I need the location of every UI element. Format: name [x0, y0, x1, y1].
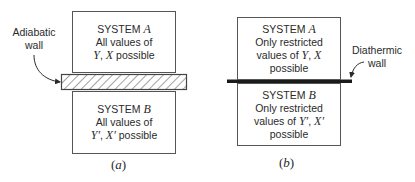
system-a-line3: values of Y, X	[257, 49, 322, 62]
adiabatic-wall-label: Adiabatic wall	[8, 26, 60, 52]
system-b-line3: Y′, X′ possible	[91, 129, 158, 142]
system-a-title: SYSTEM A	[97, 23, 150, 36]
diathermic-label-line1: Diathermic	[347, 44, 407, 57]
system-b-line2: All values of	[96, 116, 153, 129]
adiabatic-wall	[62, 75, 187, 90]
panel-b-system-b-box: SYSTEM B Only restricted values of Y′, X…	[237, 83, 341, 146]
system-a-line4: possible	[270, 62, 309, 75]
panel-b-caption: (b)	[279, 155, 294, 171]
diathermic-label-line2: wall	[347, 57, 407, 70]
adiabatic-arrow-icon	[34, 55, 60, 82]
system-b-line3: values of Y′, X′	[254, 115, 324, 128]
system-b-line4: possible	[270, 128, 309, 141]
diathermic-wall-label: Diathermic wall	[347, 44, 407, 70]
diagram-graphics	[0, 0, 415, 182]
panel-a-system-a-box: SYSTEM A All values of Y, X possible	[72, 11, 176, 73]
system-b-line2: Only restricted	[255, 102, 323, 115]
system-a-title: SYSTEM A	[262, 23, 315, 36]
system-b-title: SYSTEM B	[262, 89, 315, 102]
panel-a-caption: (a)	[111, 157, 126, 173]
system-a-line2: All values of	[96, 36, 153, 49]
adiabatic-label-line1: Adiabatic	[8, 26, 60, 39]
panel-a-system-b-box: SYSTEM B All values of Y′, X′ possible	[72, 91, 176, 154]
system-a-line2: Only restricted	[255, 36, 323, 49]
system-b-title: SYSTEM B	[97, 103, 150, 116]
panel-b-system-a-box: SYSTEM A Only restricted values of Y, X …	[237, 17, 341, 80]
system-a-line3: Y, X possible	[93, 49, 154, 62]
adiabatic-label-line2: wall	[8, 39, 60, 52]
